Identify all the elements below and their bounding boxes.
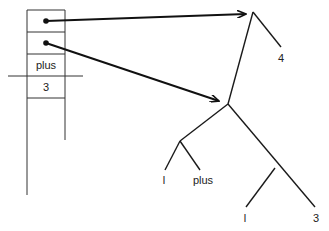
leaf-l-first: l bbox=[163, 174, 165, 186]
tree-edge-b-plus bbox=[180, 141, 200, 170]
stack-cell-plus: plus bbox=[36, 59, 57, 71]
tree-edge-c-l bbox=[246, 168, 275, 207]
leaf-l-second: l bbox=[244, 212, 246, 224]
tree: 4 l plus l 3 bbox=[163, 12, 319, 224]
arrows bbox=[46, 14, 246, 101]
stack-tree-diagram: plus 3 4 l plus l 3 bbox=[0, 0, 329, 231]
leaf-4: 4 bbox=[278, 52, 284, 64]
stack: plus 3 bbox=[8, 10, 83, 195]
tree-edge-a-c bbox=[228, 104, 315, 207]
arrow-to-root bbox=[46, 14, 246, 21]
tree-edge-root-4 bbox=[253, 12, 281, 47]
tree-edge-b-l bbox=[165, 141, 180, 170]
tree-edge-a-b bbox=[180, 104, 228, 141]
leaf-3: 3 bbox=[313, 212, 319, 224]
stack-cell-3: 3 bbox=[43, 81, 49, 93]
tree-edge-root-a bbox=[228, 12, 253, 104]
arrow-to-subtree bbox=[46, 43, 219, 101]
leaf-plus: plus bbox=[193, 174, 214, 186]
